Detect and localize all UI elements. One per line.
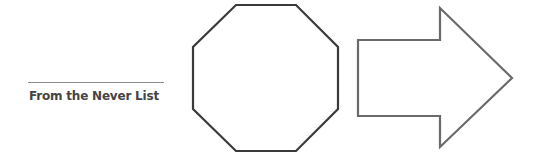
octagon-shape bbox=[193, 5, 338, 151]
right-arrow-shape bbox=[358, 8, 512, 147]
shapes-canvas bbox=[0, 0, 539, 156]
